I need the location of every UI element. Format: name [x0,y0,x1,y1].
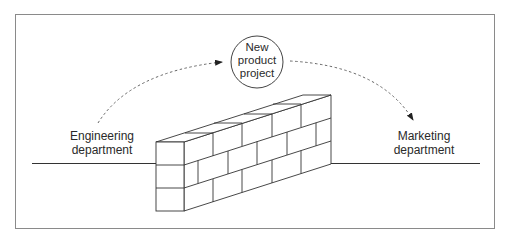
arrow-engineering-to-project [98,62,222,123]
project-node-label: New product project [231,41,283,80]
project-label-line-2: product [231,54,283,67]
diagram-canvas [0,0,509,241]
engineering-label-line-2: department [60,143,144,157]
project-label-line-3: project [231,67,283,80]
engineering-label-line-1: Engineering [60,129,144,143]
marketing-department-label: Marketing department [384,129,464,157]
marketing-label-line-1: Marketing [384,129,464,143]
marketing-label-line-2: department [384,143,464,157]
brick-wall-icon [156,95,331,211]
engineering-department-label: Engineering department [60,129,144,157]
project-label-line-1: New [231,41,283,54]
